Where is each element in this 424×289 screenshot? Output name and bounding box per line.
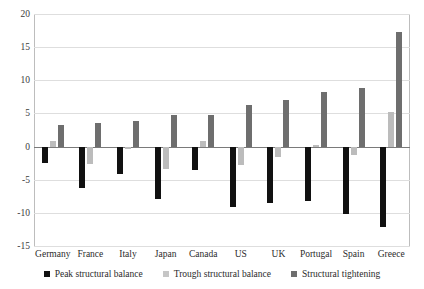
bar-trough: [125, 147, 131, 150]
bar-peak: [230, 147, 236, 207]
bar-tight: [246, 105, 252, 147]
y-axis-tick-labels: 20151050-5-10-15: [0, 0, 30, 289]
bar-peak: [343, 147, 349, 215]
bar-group: [222, 14, 260, 246]
bar-trough: [163, 147, 169, 170]
bar-group: [335, 14, 373, 246]
bar-tight: [171, 115, 177, 146]
bar-peak: [267, 147, 273, 203]
bar-tight: [396, 32, 402, 147]
bar-group: [147, 14, 185, 246]
bar-group: [184, 14, 222, 246]
y-axis-tick-label: 0: [0, 142, 30, 152]
legend-swatch-icon: [44, 271, 50, 277]
bar-tight: [133, 121, 139, 146]
bar-tight: [321, 92, 327, 146]
legend-label: Structural tightening: [302, 269, 380, 279]
bar-peak: [380, 147, 386, 228]
plot-area: [34, 14, 410, 246]
legend-swatch-icon: [291, 271, 297, 277]
bar-peak: [155, 147, 161, 199]
x-axis-tick-label: Germany: [34, 248, 72, 260]
bar-tight: [359, 88, 365, 147]
bar-tight: [95, 123, 101, 147]
gridline: [34, 246, 410, 247]
legend-label: Trough structural balance: [174, 269, 271, 279]
bar-peak: [42, 147, 48, 164]
bar-peak: [117, 147, 123, 175]
y-axis-tick-label: -5: [0, 175, 30, 185]
bar-trough: [50, 141, 56, 146]
chart-legend: Peak structural balanceTrough structural…: [0, 265, 424, 283]
x-axis-tick-label: UK: [260, 248, 298, 260]
legend-item[interactable]: Structural tightening: [291, 269, 380, 279]
chart-root: 20151050-5-10-15 GermanyFranceItalyJapan…: [0, 0, 424, 289]
bar-group: [372, 14, 410, 246]
bar-tight: [208, 115, 214, 147]
bar-peak: [192, 147, 198, 170]
bar-group: [109, 14, 147, 246]
x-axis-tick-label: US: [222, 248, 260, 260]
legend-item[interactable]: Peak structural balance: [44, 269, 143, 279]
bar-peak: [79, 147, 85, 188]
x-axis-tick-label: Italy: [109, 248, 147, 260]
bar-group: [34, 14, 72, 246]
bar-trough: [388, 112, 394, 146]
bar-trough: [200, 141, 206, 147]
legend-swatch-icon: [163, 271, 169, 277]
x-axis-tick-label: Portugal: [297, 248, 335, 260]
x-axis-tick-labels: GermanyFranceItalyJapanCanadaUSUKPortuga…: [34, 248, 410, 262]
y-axis-tick-label: 10: [0, 75, 30, 85]
bar-tight: [58, 125, 64, 147]
bar-group: [260, 14, 298, 246]
y-axis-tick-label: 15: [0, 42, 30, 52]
y-axis-tick-label: 20: [0, 9, 30, 19]
x-axis-tick-label: Greece: [372, 248, 410, 260]
bar-group: [297, 14, 335, 246]
x-axis-tick-label: Japan: [147, 248, 185, 260]
bar-group: [72, 14, 110, 246]
x-axis-tick-label: Spain: [335, 248, 373, 260]
bar-trough: [87, 147, 93, 164]
legend-label: Peak structural balance: [55, 269, 143, 279]
y-axis-tick-label: -15: [0, 241, 30, 251]
bar-trough: [238, 147, 244, 166]
bar-tight: [283, 100, 289, 147]
y-axis-tick-label: -10: [0, 208, 30, 218]
x-axis-tick-label: France: [72, 248, 110, 260]
bar-peak: [305, 147, 311, 201]
legend-item[interactable]: Trough structural balance: [163, 269, 271, 279]
y-axis-tick-label: 5: [0, 108, 30, 118]
x-axis-tick-label: Canada: [184, 248, 222, 260]
bar-trough: [275, 147, 281, 157]
bar-groups: [34, 14, 410, 246]
bar-trough: [351, 147, 357, 156]
bar-trough: [313, 145, 319, 146]
